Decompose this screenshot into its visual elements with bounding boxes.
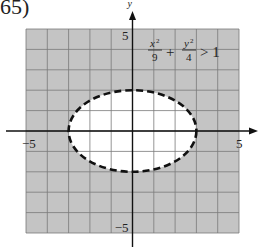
exponent: 2 (190, 37, 194, 45)
y-tick-label: 5 (122, 28, 129, 43)
x-squared: x (149, 37, 155, 49)
x-tick-label: 5 (236, 136, 243, 151)
denominator: 9 (152, 51, 158, 63)
relation: > 1 (200, 44, 220, 60)
plus-sign: + (166, 44, 174, 60)
y-axis-arrow-icon (129, 11, 136, 20)
y-squared: y (183, 37, 189, 49)
x-axis-arrow-icon (249, 128, 258, 135)
inequality-graph: y5−5−55x29+y24> 1 (0, 0, 263, 247)
x-tick-label: −5 (22, 136, 36, 151)
y-tick-label: −5 (115, 220, 129, 235)
y-axis-label: y (127, 0, 133, 9)
exponent: 2 (156, 37, 160, 45)
denominator: 4 (186, 51, 192, 63)
